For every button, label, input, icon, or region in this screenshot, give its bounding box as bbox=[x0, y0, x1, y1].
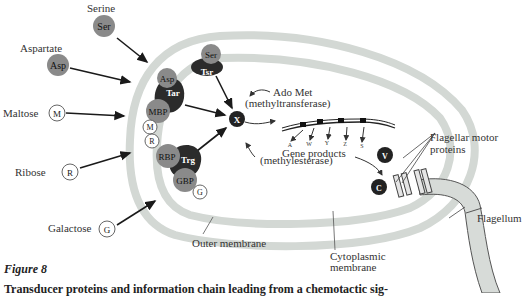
maltose-label: Maltose bbox=[3, 107, 38, 119]
ribose-label: Ribose bbox=[15, 166, 46, 178]
gbp-label: GBP bbox=[176, 176, 194, 186]
asp-label: Asp bbox=[50, 60, 66, 71]
r-label: R bbox=[67, 168, 73, 178]
receptor-r-label: R bbox=[149, 137, 155, 146]
flagellar-motor-label-2: proteins bbox=[430, 143, 465, 155]
c-label: C bbox=[376, 184, 382, 193]
receptor-m-label: M bbox=[146, 123, 153, 132]
flagellum-label: Flagellum bbox=[477, 212, 522, 224]
flagellar-motor-label-1: Flagellar motor bbox=[430, 131, 498, 143]
figure-title: Figure 8 bbox=[4, 262, 47, 277]
serine-label: Serine bbox=[87, 2, 115, 14]
tsr-label: Tsr bbox=[201, 67, 214, 77]
receptor-g-label: G bbox=[197, 188, 203, 197]
mbp-label: MBP bbox=[148, 107, 167, 117]
m-label: M bbox=[53, 109, 61, 119]
gene-y: Y bbox=[325, 140, 330, 146]
trg-label: Trg bbox=[181, 155, 195, 165]
v-label: V bbox=[382, 152, 388, 161]
gene-products-label: Gene products bbox=[282, 147, 346, 159]
rbp-label: RBP bbox=[158, 152, 175, 162]
x-label: X bbox=[234, 115, 241, 125]
receptor-ser-label: Ser bbox=[205, 50, 217, 60]
outer-membrane-label: Outer membrane bbox=[192, 237, 266, 249]
cytoplasmic-membrane-label-2: membrane bbox=[330, 261, 376, 273]
tar-label: Tar bbox=[166, 88, 180, 98]
g-label: G bbox=[104, 225, 111, 235]
gene-s: S bbox=[360, 143, 363, 149]
methyltransferase-label: (methyltransferase) bbox=[245, 97, 331, 109]
aspartate-label: Aspartate bbox=[20, 42, 62, 54]
ser-label: Ser bbox=[97, 21, 111, 32]
receptor-asp-label: Asp bbox=[160, 74, 175, 84]
galactose-label: Galactose bbox=[48, 222, 91, 234]
figure-caption: Transducer proteins and information chai… bbox=[4, 282, 388, 297]
